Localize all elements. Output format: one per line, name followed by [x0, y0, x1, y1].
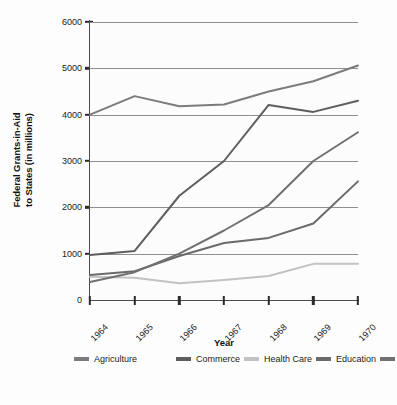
plot-area [90, 22, 358, 300]
y-axis-tick-label: 3000 [40, 156, 82, 166]
legend-swatch-icon [74, 357, 89, 361]
x-axis-tick-mark [178, 296, 180, 305]
x-axis-tick-mark [267, 296, 269, 305]
legend-label: Agriculture [94, 354, 137, 364]
legend-swatch-icon [316, 357, 331, 361]
legend-item-education[interactable]: Education [316, 352, 376, 365]
x-axis-tick-mark [223, 296, 225, 305]
series-line-education [90, 181, 358, 275]
legend-item-agriculture[interactable]: Agriculture [74, 352, 172, 365]
x-axis-title: Year [90, 337, 358, 348]
legend-swatch-icon [244, 357, 259, 361]
series-line-agriculture [90, 66, 358, 115]
x-axis-tick-mark [133, 296, 135, 305]
series-line-community-development [90, 132, 358, 282]
legend-item-commerce[interactable]: Commerce [176, 352, 240, 365]
y-axis-tick-label: 0 [40, 295, 82, 305]
legend-swatch-icon [380, 357, 395, 361]
y-axis-tick-label: 2000 [40, 202, 82, 212]
chart-legend: AgricultureCommerceHealth CareEducationC… [74, 352, 374, 365]
legend-label: Health Care [264, 354, 312, 364]
y-axis-title-text: Federal Grants-in-Aidto States (in milli… [11, 112, 35, 207]
series-lines [90, 22, 358, 300]
chart-page: Federal Grants-in-Aidto States (in milli… [0, 0, 397, 405]
legend-swatch-icon [176, 357, 191, 361]
x-axis-tick-label: 1970 [357, 322, 378, 343]
series-line-commerce [90, 101, 358, 255]
y-axis-tick-label: 6000 [40, 17, 82, 27]
x-axis-tick-mark [312, 296, 314, 305]
x-axis-tick-mark [357, 296, 359, 305]
y-axis-tick-label: 1000 [40, 249, 82, 259]
y-axis-tick-label: 4000 [40, 110, 82, 120]
y-axis-tick-label: 5000 [40, 63, 82, 73]
legend-item-health-care[interactable]: Health Care [244, 352, 312, 365]
legend-item-community-development[interactable]: Community Development [380, 352, 397, 365]
legend-label: Commerce [196, 354, 240, 364]
legend-label: Education [336, 354, 376, 364]
x-axis-tick-mark [89, 296, 91, 305]
